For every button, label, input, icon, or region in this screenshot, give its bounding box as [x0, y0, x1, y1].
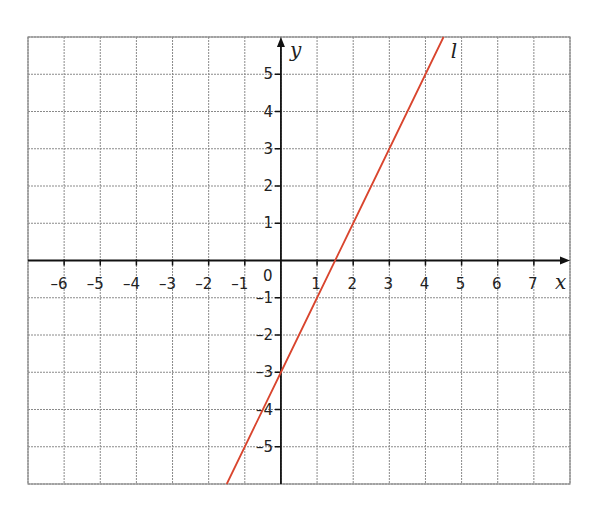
- x-tick-label: 7: [528, 275, 538, 293]
- y-tick-label: –3: [256, 363, 273, 381]
- y-tick-label: 2: [263, 177, 273, 195]
- x-tick-label: –4: [123, 275, 140, 293]
- x-tick-label: –2: [195, 275, 212, 293]
- x-tick-label: 5: [456, 275, 466, 293]
- y-tick-label: –5: [256, 438, 273, 456]
- x-tick-label: –1: [231, 275, 248, 293]
- y-tick-label: 3: [263, 140, 273, 158]
- axes: [28, 37, 570, 484]
- x-tick-label: 2: [347, 275, 357, 293]
- coordinate-plane: –6–5–4–3–2–11234567–5–4–3–2–112345 x y 0…: [0, 0, 605, 517]
- x-tick-label: 1: [311, 275, 321, 293]
- x-axis-label: x: [555, 270, 566, 294]
- x-tick-label: –6: [51, 275, 68, 293]
- y-tick-label: –4: [256, 401, 273, 419]
- origin-label: 0: [263, 267, 273, 285]
- x-tick-label: 4: [420, 275, 430, 293]
- y-tick-label: –1: [256, 289, 273, 307]
- y-tick-label: 1: [263, 214, 273, 232]
- x-tick-label: –3: [159, 275, 176, 293]
- y-axis-label: y: [289, 38, 302, 62]
- x-axis-arrow-icon: [560, 257, 570, 265]
- x-tick-label: 3: [384, 275, 394, 293]
- line-label-l: l: [451, 39, 457, 63]
- x-tick-label: 6: [492, 275, 502, 293]
- y-tick-label: 4: [263, 103, 273, 121]
- y-tick-label: 5: [263, 65, 273, 83]
- x-tick-label: –5: [87, 275, 104, 293]
- y-axis-arrow-icon: [277, 37, 285, 47]
- y-tick-label: –2: [256, 326, 273, 344]
